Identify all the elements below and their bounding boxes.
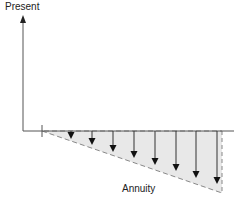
annuity-diagram: [0, 0, 240, 200]
annuity-label: Annuity: [122, 183, 155, 194]
y-axis-arrow-icon: [20, 15, 26, 23]
